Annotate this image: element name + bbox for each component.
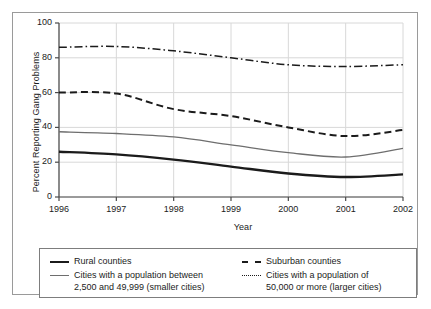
y-tick-label: 40 — [26, 121, 52, 131]
legend-column-right: Suburban countiesCities with a populatio… — [242, 255, 418, 294]
y-tick-label: 0 — [26, 191, 52, 201]
legend-line-swatch-icon — [50, 261, 69, 266]
figure-container: Percent Reporting Gang Problems Year 100… — [0, 0, 431, 309]
legend-label: Cities with a population of 50,000 or mo… — [266, 269, 418, 293]
legend-entry: Suburban counties — [242, 255, 418, 268]
y-tick-label: 80 — [26, 52, 52, 62]
y-tick-label: 60 — [26, 87, 52, 97]
figure-outer-border: Percent Reporting Gang Problems Year 100… — [12, 12, 418, 295]
legend-entry: Cities with a population between 2,500 a… — [50, 269, 250, 293]
legend-line-swatch-icon — [242, 275, 261, 279]
legend-line-swatch-icon — [50, 275, 69, 279]
axis-tick-marks — [55, 23, 403, 201]
legend-column-left: Rural countiesCities with a population b… — [50, 255, 250, 294]
x-tick-label: 1999 — [211, 204, 251, 214]
x-tick-label: 2000 — [268, 204, 308, 214]
x-tick-label: 2002 — [383, 204, 423, 214]
chart-legend: Rural countiesCities with a population b… — [39, 248, 417, 298]
legend-entry: Cities with a population of 50,000 or mo… — [242, 269, 418, 293]
grid-lines — [59, 23, 403, 197]
x-tick-label: 1997 — [96, 204, 136, 214]
legend-label: Cities with a population between 2,500 a… — [74, 269, 250, 293]
y-tick-label: 100 — [26, 17, 52, 27]
legend-entry: Rural counties — [50, 255, 250, 268]
y-tick-label: 20 — [26, 156, 52, 166]
legend-label: Rural counties — [74, 255, 250, 267]
x-tick-label: 1998 — [154, 204, 194, 214]
x-tick-label: 1996 — [39, 204, 79, 214]
x-axis-title: Year — [63, 222, 423, 232]
x-tick-label: 2001 — [326, 204, 366, 214]
legend-line-swatch-icon — [242, 261, 261, 266]
legend-label: Suburban counties — [266, 255, 418, 267]
